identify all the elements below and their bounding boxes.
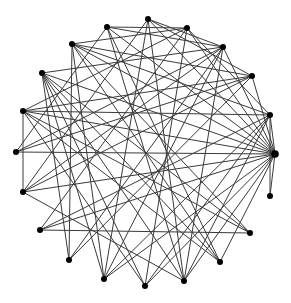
graph-node — [104, 24, 110, 30]
graph-node — [66, 257, 72, 263]
graph-node — [39, 70, 45, 76]
graph-edge — [23, 192, 184, 281]
graph-node — [20, 189, 26, 195]
graph-node — [220, 44, 226, 50]
graph-node — [142, 283, 148, 289]
graph-node — [37, 227, 43, 233]
graph-node — [271, 150, 279, 158]
graph-edge — [42, 47, 223, 73]
graph-edge — [16, 27, 107, 152]
graph-node — [217, 259, 223, 265]
graph-node — [184, 25, 190, 31]
graph-node — [20, 108, 26, 114]
graph-node — [101, 276, 107, 282]
graph-edge — [220, 154, 275, 262]
graph-edge — [72, 44, 104, 279]
graph-node — [13, 149, 19, 155]
graph-edge — [42, 73, 220, 262]
graph-edge — [107, 27, 220, 262]
graph-node — [267, 112, 273, 118]
graph-edge — [40, 230, 250, 233]
graph-edge — [107, 27, 187, 28]
graph-edge — [42, 73, 104, 279]
graph-node — [145, 16, 151, 22]
graph-node — [249, 73, 255, 79]
graph-node — [69, 41, 75, 47]
graph-edge — [184, 47, 223, 281]
graph-edge — [104, 47, 223, 279]
graph-node — [267, 193, 273, 199]
graph-edge — [148, 19, 223, 47]
graph-edge — [184, 115, 270, 281]
graph-edges — [16, 19, 275, 286]
network-graph — [0, 0, 291, 303]
graph-edge — [23, 111, 145, 286]
graph-edge — [23, 111, 270, 115]
graph-node — [181, 278, 187, 284]
graph-node — [247, 230, 253, 236]
